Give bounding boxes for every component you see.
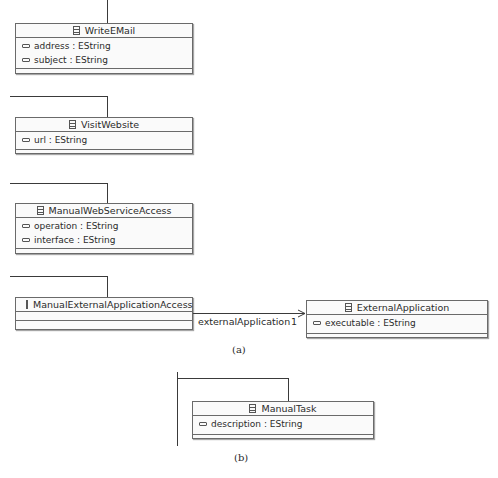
attribute-compartment [16, 312, 192, 321]
class-header: WriteEMail [16, 24, 192, 38]
operation-compartment [16, 69, 192, 76]
class-name: ExternalApplication [357, 302, 450, 313]
container-line [177, 372, 178, 446]
association-role-label: externalApplication [198, 316, 290, 327]
class-name: ManualExternalApplicationAccess [33, 299, 193, 310]
attribute-icon [313, 321, 321, 325]
class-external-application[interactable]: ExternalApplication executable : EString [306, 300, 488, 338]
class-manual-task[interactable]: ManualTask description : EString [192, 401, 374, 439]
operation-compartment [16, 249, 192, 256]
attribute-compartment: address : EString subject : EString [16, 38, 192, 69]
inheritance-line [107, 276, 108, 297]
class-header: ExternalApplication [307, 301, 487, 315]
inheritance-line [10, 276, 108, 277]
attribute-executable[interactable]: executable : EString [313, 316, 487, 330]
attribute-operation[interactable]: operation : EString [22, 219, 192, 233]
class-name: VisitWebsite [81, 119, 139, 130]
operation-compartment [193, 435, 373, 442]
attribute-compartment: description : EString [193, 416, 373, 435]
attribute-compartment: url : EString [16, 132, 192, 150]
inheritance-line [288, 378, 289, 401]
figure-caption-a: (a) [232, 344, 246, 355]
attribute-compartment: operation : EString interface : EString [16, 218, 192, 249]
eclass-icon [73, 26, 80, 35]
class-header: ManualTask [193, 402, 373, 416]
eclass-icon [37, 206, 44, 215]
inheritance-line [107, 183, 108, 203]
class-header: ManualWebServiceAccess [16, 204, 192, 218]
association-multiplicity-label: 1 [291, 316, 297, 327]
inheritance-line [107, 0, 108, 23]
attribute-icon [22, 58, 30, 62]
inheritance-line [10, 96, 108, 97]
class-visit-website[interactable]: VisitWebsite url : EString [15, 117, 193, 154]
class-manual-external-application-access[interactable]: ManualExternalApplicationAccess [15, 297, 193, 330]
operation-compartment [16, 150, 192, 157]
attribute-icon [22, 224, 30, 228]
class-header: VisitWebsite [16, 118, 192, 132]
eclass-icon [249, 404, 256, 413]
operation-compartment [307, 334, 487, 341]
inheritance-line [177, 378, 289, 379]
figure-caption-b: (b) [234, 452, 248, 463]
attribute-description[interactable]: description : EString [199, 417, 373, 431]
class-manual-web-service-access[interactable]: ManualWebServiceAccess operation : EStri… [15, 203, 193, 254]
inheritance-line [107, 96, 108, 117]
association-line[interactable] [193, 313, 305, 314]
attribute-icon [22, 44, 30, 48]
class-name: WriteEMail [85, 25, 135, 36]
attribute-address[interactable]: address : EString [22, 39, 192, 53]
attribute-compartment: executable : EString [307, 315, 487, 334]
eclass-icon [345, 303, 352, 312]
attribute-icon [22, 138, 30, 142]
eclass-icon [26, 300, 28, 309]
inheritance-line [10, 183, 108, 184]
attribute-subject[interactable]: subject : EString [22, 53, 192, 67]
attribute-icon [199, 422, 207, 426]
class-header: ManualExternalApplicationAccess [16, 298, 192, 312]
attribute-url[interactable]: url : EString [22, 133, 192, 147]
attribute-icon [22, 238, 30, 242]
attribute-interface[interactable]: interface : EString [22, 233, 192, 247]
class-name: ManualTask [261, 403, 316, 414]
class-write-email[interactable]: WriteEMail address : EString subject : E… [15, 23, 193, 74]
class-name: ManualWebServiceAccess [49, 205, 172, 216]
eclass-icon [69, 120, 76, 129]
operation-compartment [16, 321, 192, 328]
